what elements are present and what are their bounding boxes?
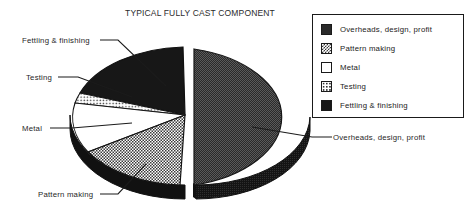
legend-label-pattern-making: Pattern making bbox=[340, 44, 395, 53]
legend-item-metal: Metal bbox=[321, 58, 463, 77]
legend-swatch-pattern-making-icon bbox=[321, 43, 332, 54]
callout-pattern-making: Pattern making bbox=[38, 190, 93, 199]
legend-swatch-metal-icon bbox=[321, 62, 332, 73]
callout-fettling: Fettling & finishing bbox=[22, 36, 90, 45]
legend: Overheads, design, profit Pattern making… bbox=[312, 14, 464, 118]
legend-item-fettling: Fettling & finishing bbox=[321, 96, 463, 115]
callout-overheads: Overheads, design, profit bbox=[333, 133, 425, 142]
legend-label-fettling: Fettling & finishing bbox=[340, 101, 408, 110]
legend-item-testing: Testing bbox=[321, 77, 463, 96]
legend-label-metal: Metal bbox=[340, 63, 360, 72]
legend-swatch-fettling-icon bbox=[321, 100, 332, 111]
pie-slice-overheads bbox=[194, 49, 282, 185]
callout-metal: Metal bbox=[22, 124, 42, 133]
pie-chart-figure: TYPICAL FULLY CAST COMPONENT bbox=[0, 0, 474, 222]
legend-label-overheads: Overheads, design, profit bbox=[340, 25, 432, 34]
legend-swatch-testing-icon bbox=[321, 81, 332, 92]
legend-item-pattern-making: Pattern making bbox=[321, 39, 463, 58]
legend-item-overheads: Overheads, design, profit bbox=[321, 20, 463, 39]
legend-label-testing: Testing bbox=[340, 82, 366, 91]
callout-testing: Testing bbox=[26, 73, 52, 82]
legend-swatch-overheads-icon bbox=[321, 24, 332, 35]
